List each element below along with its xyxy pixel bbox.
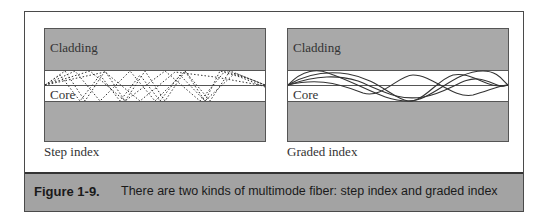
step-index-rays [45,29,265,141]
figure-caption: There are two kinds of multimode fiber: … [121,184,498,198]
figure-frame: Cladding Core Step index Cladding Core [24,11,524,212]
graded-index-rays [288,29,508,141]
graded-index-diagram: Cladding Core [287,28,509,142]
step-index-diagram: Cladding Core [44,28,266,142]
step-index-label: Step index [44,144,99,160]
figure-number: Figure 1-9. [34,184,100,199]
figure-caption-bar: Figure 1-9. There are two kinds of multi… [25,172,523,211]
graded-index-label: Graded index [287,144,357,160]
